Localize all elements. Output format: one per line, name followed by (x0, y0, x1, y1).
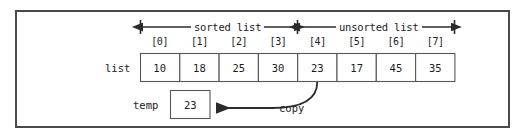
array-cell-value-3: 30 (258, 63, 297, 74)
temp-name-label: temp (133, 100, 158, 111)
array-index-label-5: [5] (337, 37, 376, 47)
array-index-label-6: [6] (376, 37, 415, 47)
region-label-sorted: sorted list (191, 22, 264, 33)
region-label-unsorted: unsorted list (336, 22, 422, 33)
array-cell-value-4: 23 (298, 63, 337, 74)
array-index-label-3: [3] (258, 37, 297, 47)
copy-arrow-label: copy (279, 103, 304, 114)
figure-canvas: sorted list unsorted list [0] [1] [2] [3… (0, 0, 526, 138)
array-cell-value-5: 17 (337, 63, 376, 74)
array-cell-value-7: 35 (416, 63, 455, 74)
array-index-label-1: [1] (180, 37, 219, 47)
array-name-label: list (105, 63, 130, 74)
temp-value: 23 (171, 100, 211, 111)
array-index-label-0: [0] (140, 37, 179, 47)
array-cell-value-1: 18 (180, 63, 219, 74)
array-index-label-7: [7] (416, 37, 455, 47)
array-index-label-4: [4] (298, 37, 337, 47)
array-index-label-2: [2] (219, 37, 258, 47)
array-cell-value-6: 45 (376, 63, 415, 74)
array-cell-value-0: 10 (140, 63, 179, 74)
array-cell-value-2: 25 (219, 63, 258, 74)
